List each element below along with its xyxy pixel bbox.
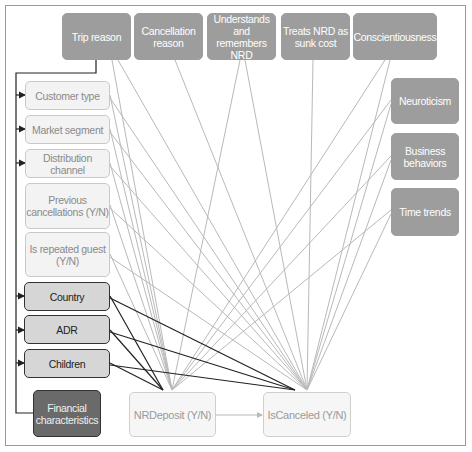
light-edges bbox=[110, 60, 391, 390]
node-cancellation-reason: Cancellation reason bbox=[134, 13, 203, 60]
node-nrdeposit: NRDeposit (Y/N) bbox=[129, 392, 216, 437]
node-sunk-cost: Treats NRD as sunk cost bbox=[281, 13, 350, 60]
node-children: Children bbox=[24, 349, 110, 378]
node-previous-cancellations: Previous cancellations (Y/N) bbox=[25, 183, 110, 229]
node-conscientiousness: Conscientiousness bbox=[353, 13, 437, 60]
node-financial-characteristics: Financial characteristics bbox=[33, 390, 101, 437]
node-customer-type: Customer type bbox=[25, 81, 110, 110]
node-understands-nrd: Understands and remembers NRD bbox=[207, 13, 276, 60]
node-country: Country bbox=[24, 282, 110, 311]
node-business-behaviors: Business behaviors bbox=[391, 133, 459, 180]
node-distribution-channel: Distribution channel bbox=[25, 149, 110, 178]
node-adr: ADR bbox=[24, 315, 110, 344]
node-market-segment: Market segment bbox=[25, 115, 110, 144]
node-iscanceled: IsCanceled (Y/N) bbox=[263, 392, 351, 437]
node-neuroticism: Neuroticism bbox=[391, 78, 459, 124]
node-trip-reason: Trip reason bbox=[62, 13, 131, 60]
node-time-trends: Time trends bbox=[391, 188, 459, 236]
node-is-repeated-guest: Is repeated guest (Y/N) bbox=[25, 232, 110, 277]
